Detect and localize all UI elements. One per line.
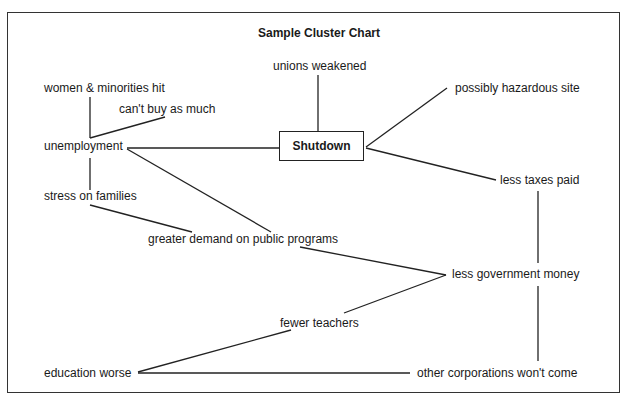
node-less-taxes: less taxes paid	[500, 173, 579, 187]
node-women-minorities: women & minorities hit	[44, 81, 165, 95]
node-fewer-teachers: fewer teachers	[280, 316, 359, 330]
center-node-label: Shutdown	[293, 139, 351, 153]
node-other-corporations: other corporations won't come	[417, 366, 577, 380]
node-greater-demand: greater demand on public programs	[148, 232, 338, 246]
node-cant-buy: can't buy as much	[119, 102, 215, 116]
node-hazardous-site: possibly hazardous site	[455, 81, 580, 95]
node-less-gov-money: less government money	[452, 267, 579, 281]
center-node-shutdown: Shutdown	[279, 131, 364, 161]
chart-title: Sample Cluster Chart	[258, 26, 380, 40]
node-stress-families: stress on families	[44, 189, 137, 203]
node-education-worse: education worse	[44, 366, 131, 380]
node-unions-weakened: unions weakened	[273, 59, 366, 73]
node-unemployment: unemployment	[44, 139, 123, 153]
